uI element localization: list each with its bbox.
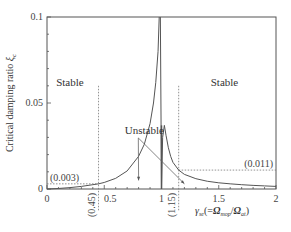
data-curves [47, 17, 276, 189]
annotations: StableStableUnstable [56, 76, 238, 184]
critical-damping-chart: 00.511.5200.050.1 (0.45)(1.15)(0.003)(0.… [0, 0, 291, 232]
damping-curve [47, 17, 159, 189]
stable-label: Stable [56, 76, 84, 88]
x-axis-label: γse(=Ωmop/Ωat) [195, 205, 249, 217]
arrowhead-icon [137, 177, 140, 181]
y-axis-label: Critical damping ratio ξc [4, 53, 18, 152]
horizontal-reference-label: (0.011) [244, 158, 273, 170]
vertical-reference-label: (0.45) [86, 193, 98, 217]
x-tick-label: 0 [45, 193, 50, 204]
x-tick-label: 0.5 [104, 193, 117, 204]
x-tick-label: 1.5 [213, 193, 226, 204]
x-tick-label: 2 [274, 193, 279, 204]
stable-label: Stable [211, 76, 239, 88]
x-tick-label: 1 [159, 193, 164, 204]
y-tick-label: 0.1 [31, 11, 44, 22]
horizontal-reference-label: (0.003) [50, 172, 79, 184]
unstable-label: Unstable [125, 124, 164, 136]
y-tick-label: 0.05 [26, 97, 44, 108]
y-tick-label: 0 [38, 183, 43, 194]
vertical-reference-label: (1.15) [166, 193, 178, 217]
